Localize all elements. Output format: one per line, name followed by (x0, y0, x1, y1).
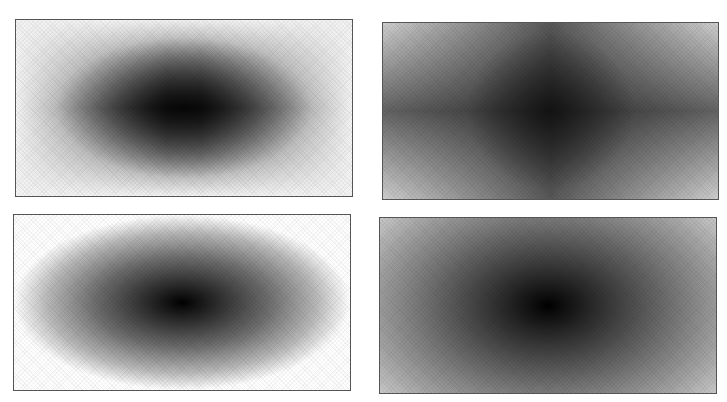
grain-overlay (383, 23, 718, 199)
rectangular-gradient-panel (15, 19, 353, 197)
grain-overlay (380, 218, 716, 393)
radial-gradient-panel (379, 217, 717, 394)
cross-gradient-panel (382, 22, 719, 200)
grain-overlay (14, 215, 350, 390)
elliptical-gradient-panel (13, 214, 351, 391)
grain-overlay (16, 20, 352, 196)
